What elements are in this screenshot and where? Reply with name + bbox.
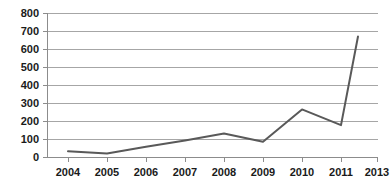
xtick-label-2013: 2013 xyxy=(365,166,389,178)
chart-background xyxy=(0,0,391,181)
ytick-label-300: 300 xyxy=(21,97,39,109)
ytick-label-800: 800 xyxy=(21,7,39,19)
y-axis-labels: 800 700 600 500 400 300 200 100 0 xyxy=(21,7,39,163)
line-chart: 800 700 600 500 400 300 200 100 0 2004 2… xyxy=(0,0,391,181)
ytick-label-700: 700 xyxy=(21,25,39,37)
xtick-label-2008: 2008 xyxy=(212,166,236,178)
chart-canvas: 800 700 600 500 400 300 200 100 0 2004 2… xyxy=(0,0,391,181)
ytick-label-200: 200 xyxy=(21,115,39,127)
xtick-label-2004: 2004 xyxy=(56,166,81,178)
x-axis-labels: 2004 2005 2006 2007 2008 2009 2010 2011 … xyxy=(56,166,389,178)
ytick-label-0: 0 xyxy=(33,151,39,163)
xtick-label-2009: 2009 xyxy=(251,166,275,178)
ytick-label-100: 100 xyxy=(21,133,39,145)
xtick-label-2006: 2006 xyxy=(134,166,158,178)
ytick-label-500: 500 xyxy=(21,61,39,73)
xtick-label-2005: 2005 xyxy=(95,166,119,178)
xtick-label-2011: 2011 xyxy=(329,166,353,178)
ytick-label-600: 600 xyxy=(21,43,39,55)
ytick-label-400: 400 xyxy=(21,79,39,91)
xtick-label-2007: 2007 xyxy=(173,166,197,178)
xtick-label-2010: 2010 xyxy=(290,166,314,178)
